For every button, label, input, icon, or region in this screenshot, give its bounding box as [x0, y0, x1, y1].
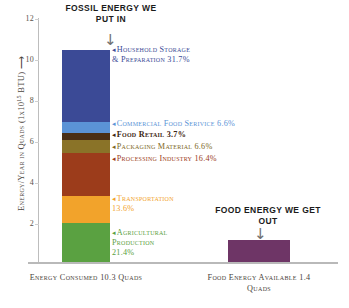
segment-household-storage-preparation[interactable]: [62, 50, 110, 122]
segment-transportation[interactable]: [62, 196, 110, 223]
label-commercial-food-service: ◂Commercial Food Serivice 6.6%: [112, 119, 235, 129]
label-text: Agricultural Production 21.4%: [112, 228, 167, 257]
pointer-triangle-icon: ◂: [112, 155, 116, 163]
label-text: Household Storage & Preparation 31.7%: [112, 45, 190, 64]
pointer-triangle-icon: ◂: [112, 229, 116, 237]
y-axis-line: [38, 18, 39, 263]
y-tick-label-4: 4: [14, 178, 34, 187]
y-tick-mark-4: [35, 183, 39, 184]
y-tick-mark-8: [35, 101, 39, 102]
label-text: Commercial Food Serivice 6.6%: [117, 119, 235, 128]
label-text: Packaging Material 6.6%: [117, 142, 213, 151]
y-tick-label-8: 8: [14, 96, 34, 105]
label-transportation: ◂Transportation 13.6%: [112, 194, 174, 214]
segment-packaging-material[interactable]: [62, 140, 110, 153]
y-tick-mark-10: [35, 60, 39, 61]
label-processing-industry: ◂Processing Industry 16.4%: [112, 154, 217, 164]
label-food-retail: ◂Food Retail 3.7%: [112, 130, 186, 140]
pointer-triangle-icon: ◂: [112, 195, 116, 203]
x-caption-food-energy-available: Food Energy Available 1.4 Quads: [199, 272, 319, 294]
pointer-triangle-icon: ◂: [112, 120, 116, 128]
y-tick-label-2: 2: [14, 219, 34, 228]
y-tick-mark-12: [35, 19, 39, 20]
output-callout-label: FOOD ENERGY WE GET OUT: [213, 205, 323, 226]
segment-food-retail[interactable]: [62, 133, 110, 140]
segment-processing-industry[interactable]: [62, 153, 110, 196]
energy-flow-chart: Energy/Year in Quads (1x1015 BTU) ⟶ 12 1…: [0, 0, 349, 308]
y-tick-label-6: 6: [14, 137, 34, 146]
pointer-triangle-icon: ◂: [112, 131, 116, 139]
label-text: Processing Industry 16.4%: [117, 154, 217, 163]
x-axis-baseline: [28, 262, 338, 264]
pointer-triangle-icon: ◂: [112, 143, 116, 151]
energy-consumed-stacked-bar: [62, 50, 110, 262]
label-text: Food Retail 3.7%: [117, 130, 186, 139]
food-energy-available-bar[interactable]: [228, 240, 290, 262]
segment-agricultural-production[interactable]: [62, 223, 110, 262]
pointer-triangle-icon: ◂: [112, 46, 116, 54]
y-tick-label-12: 12: [14, 14, 34, 23]
label-packaging-material: ◂Packaging Material 6.6%: [112, 142, 213, 152]
segment-commercial-food-service[interactable]: [62, 122, 110, 133]
label-household-storage-preparation: ◂Household Storage & Preparation 31.7%: [112, 45, 190, 65]
input-callout-label: FOSSIL ENERGY WE PUT IN: [56, 3, 166, 24]
y-tick-mark-6: [35, 142, 39, 143]
label-agricultural-production: ◂Agricultural Production 21.4%: [112, 228, 167, 257]
y-tick-label-10: 10: [14, 55, 34, 64]
y-axis-title-prefix: Energy/Year in Quads (1x10: [16, 102, 26, 211]
y-tick-mark-2: [35, 224, 39, 225]
label-text: Transportation 13.6%: [112, 194, 174, 213]
x-caption-energy-consumed: Energy Consumed 10.3 Quads: [26, 272, 146, 283]
